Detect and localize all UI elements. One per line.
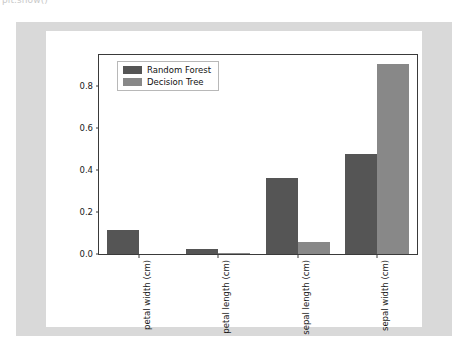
legend-swatch-decision-tree	[123, 78, 142, 86]
x-tick-label: sepal length (cm)	[302, 260, 311, 335]
y-tick-label: 0.8	[79, 82, 93, 91]
bar	[266, 178, 298, 254]
x-tick-mark	[377, 254, 378, 258]
x-tick-label: petal width (cm)	[143, 260, 152, 330]
x-tick-mark	[218, 254, 219, 258]
chart-legend: Random Forest Decision Tree	[117, 61, 219, 91]
bar	[345, 154, 377, 254]
bar	[298, 242, 330, 254]
y-tick-mark	[96, 254, 100, 255]
y-tick-label: 0.2	[79, 208, 93, 217]
matplotlib-figure: Random Forest Decision Tree 0.00.20.40.6…	[46, 31, 422, 327]
y-tick-label: 0.4	[79, 166, 93, 175]
y-tick-mark	[96, 212, 100, 213]
x-tick-mark	[297, 254, 298, 258]
bar	[218, 253, 250, 254]
notebook-cell-label: plt.show()	[2, 0, 48, 5]
legend-item-random-forest: Random Forest	[123, 66, 211, 75]
x-tick-label: sepal width (cm)	[381, 260, 390, 331]
x-tick-mark	[138, 254, 139, 258]
y-tick-mark	[96, 170, 100, 171]
legend-label-decision-tree: Decision Tree	[147, 78, 204, 87]
y-tick-label: 0.6	[79, 124, 93, 133]
y-tick-label: 0.0	[79, 250, 93, 259]
bar	[377, 64, 409, 254]
y-tick-mark	[96, 128, 100, 129]
y-tick-mark	[96, 86, 100, 87]
legend-item-decision-tree: Decision Tree	[123, 78, 211, 87]
bar	[107, 230, 139, 254]
plot-axes: Random Forest Decision Tree 0.00.20.40.6…	[98, 54, 418, 255]
legend-swatch-random-forest	[123, 66, 142, 74]
legend-label-random-forest: Random Forest	[147, 66, 211, 75]
bar	[186, 249, 218, 254]
notebook-output-panel: Random Forest Decision Tree 0.00.20.40.6…	[16, 22, 452, 336]
x-tick-label: petal length (cm)	[222, 260, 231, 334]
